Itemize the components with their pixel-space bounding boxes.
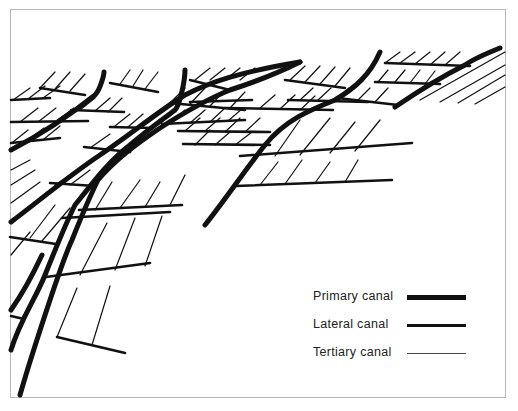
legend-swatch-tertiary [407,353,466,354]
canal-network-diagram [0,0,518,411]
legend-label-primary: Primary canal [313,289,393,303]
legend-swatch-primary [407,295,466,300]
legend-swatch-lateral [407,324,466,327]
legend-label-lateral: Lateral canal [313,317,388,331]
legend-label-tertiary: Tertiary canal [313,345,392,359]
